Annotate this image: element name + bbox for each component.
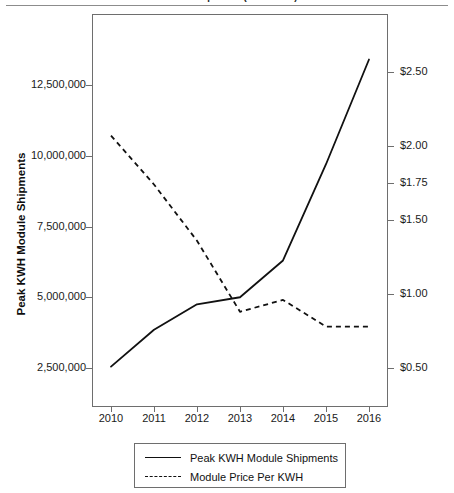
left-axis-tick-label: 12,500,000: [4, 79, 86, 90]
x-axis-tick-label: 2014: [261, 412, 305, 424]
chart-legend: Peak KWH Module Shipments Module Price P…: [134, 443, 346, 488]
right-axis-tick-mark: [388, 220, 394, 221]
x-axis-tick-label: 2015: [304, 412, 348, 424]
right-axis-tick-mark: [388, 72, 394, 73]
x-axis-tick-mark: [111, 406, 112, 412]
x-axis-tick-label: 2010: [89, 412, 133, 424]
legend-dashed-line-icon: [145, 471, 181, 483]
right-axis-tick-mark: [388, 146, 394, 147]
right-axis-tick-label: $1.00: [400, 288, 428, 299]
x-axis-tick-label: 2011: [132, 412, 176, 424]
series-line-peak-kwh-module-shipments: [111, 60, 369, 367]
legend-item-label: Peak KWH Module Shipments: [190, 452, 338, 464]
x-axis-tick-mark: [240, 406, 241, 412]
right-axis-tick-mark: [388, 294, 394, 295]
x-axis-tick-mark: [283, 406, 284, 412]
y-axis-title: Peak KWH Module Shipments: [15, 134, 27, 334]
x-axis-tick-mark: [197, 406, 198, 412]
x-axis-tick-label: 2016: [347, 412, 391, 424]
left-axis-tick-mark: [86, 156, 92, 157]
right-axis-tick-mark: [388, 183, 394, 184]
right-axis-tick-mark: [388, 368, 394, 369]
legend-solid-line-icon: [145, 452, 181, 464]
right-axis-tick-label: $2.50: [400, 66, 428, 77]
right-axis-tick-label: $2.00: [400, 140, 428, 151]
legend-item-peak-kwh-module-shipments: Peak KWH Module Shipments: [135, 449, 347, 467]
legend-item-module-price-per-kwh: Module Price Per KWH: [135, 468, 347, 486]
legend-item-label: Module Price Per KWH: [190, 471, 303, 483]
right-axis-tick-label: $1.75: [400, 177, 428, 188]
x-axis-tick-label: 2013: [218, 412, 262, 424]
left-axis-tick-mark: [86, 85, 92, 86]
x-axis-tick-label: 2012: [175, 412, 219, 424]
x-axis-ticks: 2010201120122013201420152016: [0, 412, 454, 428]
x-axis-tick-mark: [154, 406, 155, 412]
left-axis-tick-mark: [86, 297, 92, 298]
chart-canvas: [92, 14, 388, 407]
x-axis-tick-mark: [369, 406, 370, 412]
right-axis-tick-label: $0.50: [400, 362, 428, 373]
left-axis-tick-mark: [86, 227, 92, 228]
left-axis-tick-label: 2,500,000: [4, 362, 86, 373]
x-axis-tick-mark: [326, 406, 327, 412]
left-axis-tick-mark: [86, 368, 92, 369]
right-axis-tick-label: $1.50: [400, 214, 428, 225]
